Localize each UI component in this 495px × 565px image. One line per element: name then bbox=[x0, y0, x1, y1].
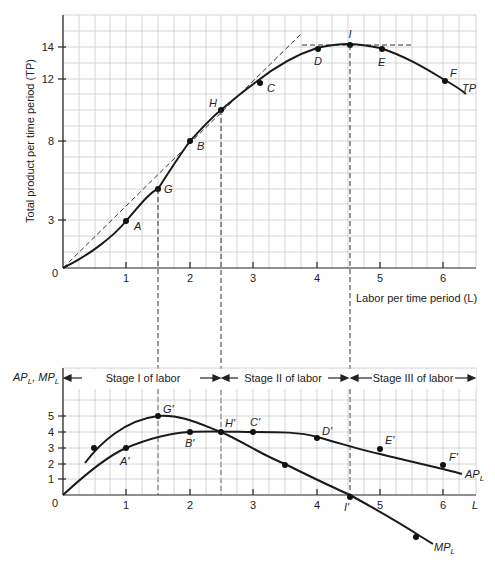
bottom-xtick-6: 6 bbox=[440, 499, 446, 511]
bottom-ytick-4: 4 bbox=[48, 426, 54, 438]
top-x-axis-title: Labor per time period (L) bbox=[356, 292, 477, 304]
label-b-prime: B' bbox=[185, 437, 195, 449]
point-f bbox=[442, 78, 448, 84]
label-d: D bbox=[314, 55, 322, 67]
mp-point-55 bbox=[413, 534, 419, 540]
top-xtick-1: 1 bbox=[123, 272, 129, 284]
stage-1-label: Stage I of labor bbox=[106, 372, 181, 384]
mp-point-35 bbox=[282, 462, 288, 468]
label-g-prime: G' bbox=[163, 403, 175, 415]
point-a bbox=[123, 218, 129, 224]
point-e-prime bbox=[377, 446, 383, 452]
point-c bbox=[257, 80, 263, 86]
bottom-xtick-2: 2 bbox=[187, 499, 193, 511]
bottom-x-axis-title: L bbox=[472, 499, 478, 511]
bottom-xtick-3: 3 bbox=[250, 499, 256, 511]
top-xtick-3: 3 bbox=[250, 272, 256, 284]
label-g: G bbox=[164, 183, 173, 195]
label-f: F bbox=[450, 67, 458, 79]
tp-curve bbox=[63, 44, 466, 268]
bottom-xtick-5: 5 bbox=[377, 499, 383, 511]
point-c-prime bbox=[250, 429, 256, 435]
label-a-prime: A' bbox=[119, 455, 130, 467]
top-xtick-4: 4 bbox=[314, 272, 320, 284]
top-xtick-6: 6 bbox=[440, 272, 446, 284]
top-ytick-12: 12 bbox=[42, 73, 54, 85]
ap-curve-label: APL bbox=[464, 468, 484, 483]
bottom-ytick-3: 3 bbox=[48, 442, 54, 454]
point-b bbox=[187, 138, 193, 144]
point-b-prime bbox=[187, 429, 193, 435]
label-e: E bbox=[378, 56, 386, 68]
point-i-prime bbox=[347, 494, 353, 500]
tp-curve-label: TP bbox=[462, 82, 477, 94]
label-b: B bbox=[197, 140, 204, 152]
label-i: I bbox=[348, 28, 351, 40]
point-f-prime bbox=[440, 462, 446, 468]
bottom-chart: Stage I of labor Stage II of labor Stage… bbox=[12, 368, 484, 556]
bottom-ytick-2: 2 bbox=[48, 458, 54, 470]
bottom-ytick-5: 5 bbox=[48, 410, 54, 422]
label-h: H bbox=[209, 97, 217, 109]
label-e-prime: E' bbox=[385, 434, 395, 446]
top-grid bbox=[63, 15, 476, 268]
bottom-ytick-1: 1 bbox=[48, 473, 54, 485]
stage-2-label: Stage II of labor bbox=[244, 372, 322, 384]
bottom-origin-label: 0 bbox=[52, 497, 58, 509]
stage-3-label: Stage III of labor bbox=[373, 372, 454, 384]
point-h-prime bbox=[218, 429, 224, 435]
mp-curve bbox=[85, 416, 433, 544]
top-ytick-3: 3 bbox=[48, 214, 54, 226]
point-e bbox=[379, 46, 385, 52]
point-a-prime bbox=[123, 445, 129, 451]
top-chart: 0 1 2 3 4 5 6 14 12 8 3 A G B H C D I E … bbox=[24, 15, 477, 304]
top-ytick-8: 8 bbox=[48, 135, 54, 147]
point-g-prime bbox=[155, 413, 161, 419]
mp-point-05 bbox=[91, 445, 97, 451]
label-h-prime: H' bbox=[225, 417, 236, 429]
bottom-y-axis-title: APL, MPL bbox=[12, 371, 59, 386]
top-origin-label: 0 bbox=[52, 267, 58, 279]
label-i-prime: I' bbox=[344, 501, 350, 513]
point-d bbox=[315, 46, 321, 52]
top-xtick-2: 2 bbox=[187, 272, 193, 284]
top-y-axis-title: Total product per time period (TP) bbox=[24, 59, 36, 223]
chart-canvas: 0 1 2 3 4 5 6 14 12 8 3 A G B H C D I E … bbox=[0, 0, 495, 565]
mp-curve-label: MPL bbox=[434, 541, 455, 556]
top-xtick-5: 5 bbox=[377, 272, 383, 284]
bottom-xtick-1: 1 bbox=[123, 499, 129, 511]
label-c: C bbox=[267, 82, 275, 94]
label-f-prime: F' bbox=[449, 451, 459, 463]
label-d-prime: D' bbox=[322, 425, 333, 437]
top-ytick-14: 14 bbox=[42, 41, 54, 53]
label-c-prime: C' bbox=[250, 416, 261, 428]
point-d-prime bbox=[314, 435, 320, 441]
label-a: A bbox=[133, 220, 141, 232]
bottom-xtick-4: 4 bbox=[314, 499, 320, 511]
